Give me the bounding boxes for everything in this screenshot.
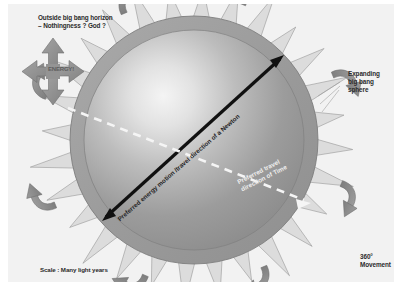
energy-label: ENERGY! <box>35 66 87 72</box>
diagram-panel: Outside big bang horizon – Nothingness ?… <box>8 4 394 282</box>
spike <box>30 152 75 168</box>
diagram-canvas: Outside big bang horizon – Nothingness ?… <box>0 0 412 298</box>
rotation-arrow <box>109 264 148 282</box>
spike <box>315 139 353 156</box>
spike <box>42 124 73 141</box>
rotation-arrow <box>330 181 365 220</box>
movement-360-label: 360° Movement <box>360 253 391 269</box>
outside-horizon-label: Outside big bang horizon – Nothingness ?… <box>38 14 113 30</box>
scale-label: Scale : Many light years <box>40 266 108 274</box>
expanding-sphere-label: Expanding big bang sphere <box>348 70 380 93</box>
